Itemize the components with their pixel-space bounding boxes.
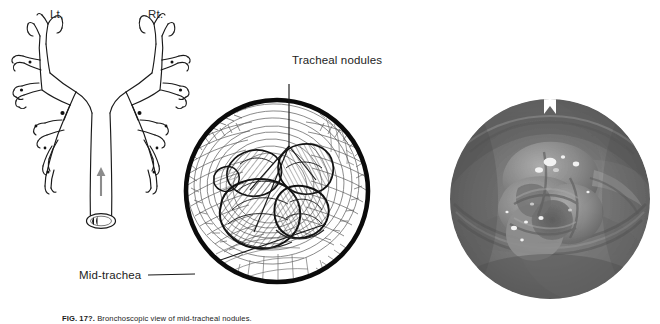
figure-caption-number: FIG. 17?. [62, 314, 95, 323]
figure-caption: FIG. 17?. Bronchoscopic view of mid-trac… [62, 314, 602, 324]
endoscopic-photograph [444, 92, 658, 310]
figure-container: Lt. Rt. [0, 0, 660, 324]
figure-caption-text: Bronchoscopic view of mid-tracheal nodul… [97, 314, 252, 323]
photo-svg [444, 92, 658, 310]
